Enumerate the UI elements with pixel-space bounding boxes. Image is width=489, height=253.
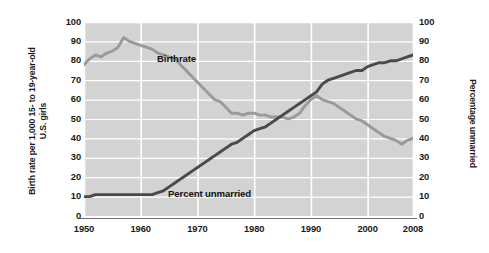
y-tick-left-20: 20 (59, 171, 81, 182)
horizontal-gridlines (84, 23, 413, 198)
y-tick-right-100: 100 (419, 16, 441, 27)
series-line-percent-unmarried (84, 55, 413, 197)
y-tick-left-100: 100 (59, 16, 81, 27)
y-tick-right-0: 0 (419, 210, 441, 221)
x-tick-1960: 1960 (121, 223, 161, 234)
x-tick-2008: 2008 (393, 223, 433, 234)
x-axis-line (80, 218, 417, 219)
y-axis-left-title: Birth rate per 1,000 15- to 19-year-old … (27, 21, 49, 221)
y-tick-left-40: 40 (59, 132, 81, 143)
series-line-birthrate (84, 38, 413, 145)
y-tick-left-10: 10 (59, 190, 81, 201)
plot-svg (84, 22, 413, 216)
y-tick-left-0: 0 (59, 210, 81, 221)
y-axis-left-ticks: 1009080706050403020100 (55, 0, 81, 253)
y-axis-left-title-line1: Birth rate per 1,000 15- to 19-year-old (27, 47, 37, 195)
x-tick-2000: 2000 (348, 223, 388, 234)
x-tick-1950: 1950 (64, 223, 104, 234)
x-tick-1990: 1990 (291, 223, 331, 234)
y-tick-right-30: 30 (419, 151, 441, 162)
plot-area (84, 22, 413, 216)
y-tick-left-90: 90 (59, 35, 81, 46)
teen-birthrate-chart: Birth rate per 1,000 15- to 19-year-old … (0, 0, 489, 253)
y-tick-right-70: 70 (419, 74, 441, 85)
y-tick-right-50: 50 (419, 113, 441, 124)
x-tick-1970: 1970 (177, 223, 217, 234)
y-tick-right-80: 80 (419, 54, 441, 65)
y-axis-right-ticks: 1009080706050403020100 (419, 0, 445, 253)
y-tick-right-40: 40 (419, 132, 441, 143)
y-tick-right-20: 20 (419, 171, 441, 182)
y-tick-left-80: 80 (59, 54, 81, 65)
y-tick-left-50: 50 (59, 113, 81, 124)
y-axis-left-title-line2: U.S. girls (38, 21, 49, 221)
y-tick-right-90: 90 (419, 35, 441, 46)
series-label-percent-unmarried: Percent unmarried (168, 188, 251, 199)
y-tick-right-60: 60 (419, 93, 441, 104)
y-tick-left-30: 30 (59, 151, 81, 162)
y-axis-right-title: Percentage unmarried (467, 44, 478, 204)
x-axis-ticks: 1950196019701980199020002008 (0, 223, 489, 239)
y-tick-right-10: 10 (419, 190, 441, 201)
y-tick-left-70: 70 (59, 74, 81, 85)
y-tick-left-60: 60 (59, 93, 81, 104)
series-label-birthrate: Birthrate (157, 53, 196, 64)
x-tick-1980: 1980 (234, 223, 274, 234)
